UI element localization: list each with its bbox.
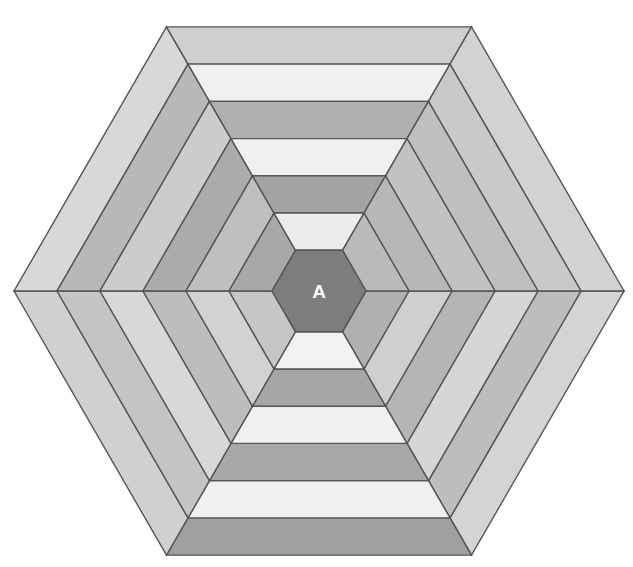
ring-strip [253, 369, 386, 406]
hexagon-spiral-diagram: A [0, 0, 633, 567]
ring-strip [231, 139, 407, 176]
ring-strip [231, 406, 407, 443]
ring-strip [167, 518, 472, 555]
ring-strip [188, 481, 450, 518]
figure-root: A [0, 0, 633, 567]
ring-strip [167, 27, 472, 64]
ring-strip [210, 101, 429, 138]
ring-strip [253, 176, 386, 213]
ring-strip [210, 443, 429, 480]
center-hexagon-label: A [312, 281, 326, 302]
ring-strip [188, 64, 450, 101]
